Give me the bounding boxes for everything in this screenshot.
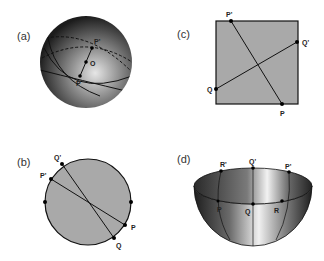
label-p: P — [76, 80, 81, 87]
panel-a: (a) P' O P — [17, 16, 132, 108]
label-q-prime: Q' — [302, 39, 309, 47]
panel-c: (c) P' Q' Q P — [177, 11, 309, 117]
panel-b: (b) Q' P' P Q — [17, 154, 136, 250]
label-q: Q — [245, 208, 251, 216]
label-q-prime: Q' — [249, 158, 256, 166]
label-p: P — [217, 206, 222, 213]
panel-d-label: (d) — [177, 153, 190, 165]
point-q — [251, 202, 255, 206]
point-q-prime — [251, 166, 255, 170]
panel-a-label: (a) — [17, 30, 30, 42]
point-p-prime — [49, 177, 53, 181]
label-p: P — [280, 110, 285, 117]
label-p-prime: P' — [285, 163, 292, 170]
label-p-prime: P' — [40, 172, 47, 179]
label-q: Q — [207, 86, 213, 94]
point-right — [129, 200, 133, 204]
point-q-prime — [60, 162, 64, 166]
point-q-prime — [295, 40, 299, 44]
point-o — [84, 60, 88, 64]
label-o: O — [90, 60, 96, 67]
point-p-prime — [287, 170, 291, 174]
point-p — [78, 74, 82, 78]
point-p — [280, 102, 284, 106]
point-q — [214, 87, 218, 91]
point-p-prime — [90, 46, 94, 50]
panel-d: (d) R' Q' P' P Q R — [177, 153, 312, 246]
label-p: P — [131, 224, 136, 231]
label-r: R — [274, 207, 279, 214]
label-q-prime: Q' — [54, 154, 61, 162]
figure: (a) P' O P (c) P' Q' Q P — [0, 0, 324, 261]
point-p — [217, 200, 220, 203]
label-p-prime: P' — [94, 38, 101, 45]
label-r-prime: R' — [220, 161, 227, 168]
point-p — [123, 223, 127, 227]
label-q: Q — [116, 242, 122, 250]
panel-b-label: (b) — [17, 156, 30, 168]
point-p-prime — [229, 19, 233, 23]
point-q — [112, 236, 116, 240]
point-r-prime — [219, 169, 223, 173]
panel-c-label: (c) — [177, 28, 190, 40]
point-left — [43, 200, 47, 204]
point-r — [280, 199, 284, 203]
label-p-prime: P' — [226, 11, 233, 18]
